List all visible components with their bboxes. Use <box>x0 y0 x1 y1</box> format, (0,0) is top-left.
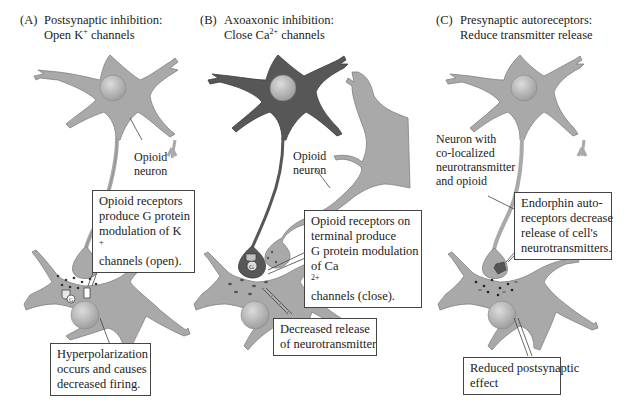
nucleus-icon <box>71 301 99 329</box>
nucleus-icon <box>270 75 296 101</box>
panel-a-neuron-label: Opioid neuron <box>134 150 167 178</box>
panel-c-receptor-callout: Endorphin auto- receptors decrease relea… <box>514 192 612 260</box>
panel-a-bottom-callout: Hyperpolarization occurs and causes decr… <box>50 343 151 396</box>
svg-text:G: G <box>249 263 254 271</box>
panel-a-title: (A)Postsynaptic inhibition: Open K+ chan… <box>20 13 162 43</box>
nucleus-icon <box>511 75 537 101</box>
panel-b-neuron-label: Opioid neuron <box>293 149 326 177</box>
panel-c-title: (C)Presynaptic autoreceptors: Reduce tra… <box>436 13 593 43</box>
nucleus-icon <box>100 75 126 101</box>
k-channel-icon <box>84 288 90 298</box>
panel-b-receptor-callout: Opioid receptors on terminal produce G p… <box>304 210 422 308</box>
panel-c-neuron-label: Neuron with co-localized neurotransmitte… <box>436 132 515 188</box>
panel-b-title: (B)Axoaxonic inhibition: Close Ca2+ chan… <box>200 13 334 43</box>
panel-a-receptor-callout: Opioid receptors produce G protein modul… <box>92 190 195 273</box>
svg-text:G: G <box>69 297 74 303</box>
panel-c-postsynaptic-neuron <box>438 252 598 356</box>
panel-c-bottom-callout: Reduced postsynaptic effect <box>463 357 561 395</box>
nucleus-icon <box>488 301 516 329</box>
panel-b-bottom-callout: Decreased release of neurotransmitter <box>273 318 377 356</box>
nucleus-icon <box>241 301 269 329</box>
